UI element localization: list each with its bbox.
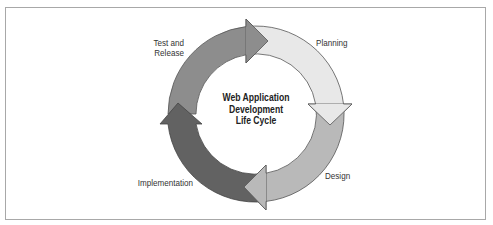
arrowhead-planning: [308, 104, 352, 125]
label-implementation-text: Implementation: [138, 178, 193, 188]
title-line-3: Life Cycle: [207, 115, 305, 127]
diagram-title: Web Application Development Life Cycle: [207, 92, 305, 127]
title-line-1: Web Application: [207, 92, 305, 104]
label-planning: Planning: [316, 38, 347, 48]
arrowhead-design: [244, 165, 266, 210]
arrowhead-test-release: [246, 19, 268, 63]
label-test-release: Test and Release: [153, 38, 184, 58]
label-planning-text: Planning: [316, 38, 347, 48]
label-test-release-line-2: Release: [153, 48, 184, 58]
label-design-text: Design: [325, 171, 350, 181]
label-implementation: Implementation: [138, 178, 193, 188]
label-design: Design: [325, 171, 350, 181]
